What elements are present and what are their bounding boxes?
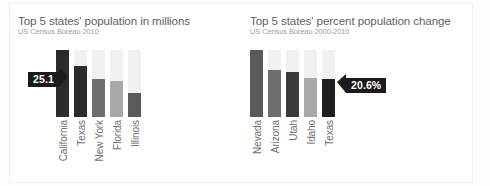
axis-label-arizona: Arizona — [269, 120, 280, 153]
bar-fill — [250, 50, 263, 117]
plot-area-percent-change — [250, 50, 335, 117]
bar-nevada — [250, 50, 263, 117]
bar-fill — [304, 78, 317, 117]
bar-idaho — [304, 50, 317, 117]
axis-labels-population: CaliforniaTexasNew YorkFloridaIllinois — [56, 120, 141, 172]
chart-subtitle-population: US Census Bureau 2010 — [18, 27, 99, 36]
callout-texas-value: 20.6% — [346, 78, 386, 93]
axis-cell: California — [56, 120, 69, 172]
chart-percent-change: Top 5 states' percent population change … — [246, 0, 481, 186]
axis-labels-percent-change: NevadaArizonaUtahIdahoTexas — [250, 120, 335, 172]
axis-label-illinois: Illinois — [129, 120, 140, 147]
bar-illinois — [128, 50, 141, 117]
axis-label-new-york: New York — [93, 120, 104, 161]
bar-arizona — [268, 50, 281, 117]
bar-fill — [128, 93, 141, 117]
axis-label-texas: Texas — [75, 120, 86, 146]
axis-cell: Arizona — [268, 120, 281, 172]
bar-utah — [286, 50, 299, 117]
chart-title-population: Top 5 states' population in millions — [18, 14, 190, 27]
bar-fill — [74, 66, 87, 117]
bar-fill — [268, 70, 281, 117]
bar-florida — [110, 50, 123, 117]
axis-cell: Texas — [74, 120, 87, 172]
bar-fill — [110, 81, 123, 117]
axis-cell: New York — [92, 120, 105, 172]
axis-cell: Nevada — [250, 120, 263, 172]
axis-label-texas: Texas — [323, 120, 334, 146]
plot-area-population — [56, 50, 141, 117]
axis-cell: Utah — [286, 120, 299, 172]
axis-label-idaho: Idaho — [305, 120, 316, 145]
axis-cell: Idaho — [304, 120, 317, 172]
axis-label-nevada: Nevada — [251, 120, 262, 154]
chart-subtitle-percent-change: US Census Bureau 2000-2010 — [250, 27, 349, 36]
bar-new-york — [92, 50, 105, 117]
chart-title-percent-change: Top 5 states' percent population change — [250, 14, 451, 27]
axis-label-california: California — [57, 120, 68, 161]
bar-texas — [74, 50, 87, 117]
infographic-canvas: Top 5 states' population in millions US … — [0, 0, 490, 186]
bar-texas — [322, 50, 335, 117]
bar-fill — [322, 79, 335, 117]
axis-cell: Florida — [110, 120, 123, 172]
bar-fill — [286, 72, 299, 117]
axis-label-florida: Florida — [111, 120, 122, 150]
axis-cell: Illinois — [128, 120, 141, 172]
bar-fill — [92, 79, 105, 117]
callout-california-value: 25.1 — [28, 72, 59, 87]
axis-cell: Texas — [322, 120, 335, 172]
chart-population: Top 5 states' population in millions US … — [14, 0, 249, 186]
axis-label-utah: Utah — [287, 120, 298, 141]
